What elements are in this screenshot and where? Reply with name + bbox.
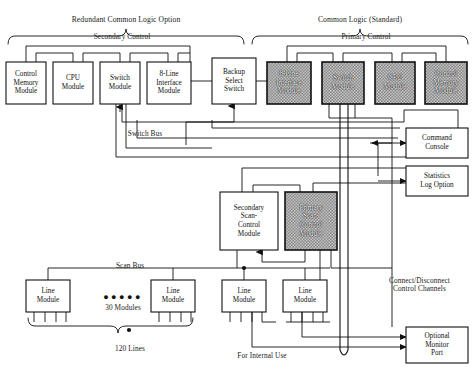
switch-module-primary[interactable] xyxy=(322,62,364,104)
primary-control: Primary Control xyxy=(296,33,436,41)
eight-line-interface-module-secondary[interactable] xyxy=(147,62,191,104)
primary-scan-control-module[interactable] xyxy=(285,192,337,250)
lines-count-label: 120 Lines xyxy=(100,345,160,353)
connect-disconnect-label: Connect/Disconnect Control Channels xyxy=(372,277,467,294)
line-module-2[interactable] xyxy=(151,280,195,312)
module-boxes xyxy=(6,58,468,363)
optional-monitor-port[interactable] xyxy=(406,327,468,363)
redundant-group-label: Redundant Common Logic Option xyxy=(8,16,244,24)
internal-use-label: For Internal Use xyxy=(222,352,302,360)
cpu-module-primary[interactable] xyxy=(375,62,415,104)
switch-bus-label: Switch Bus xyxy=(105,130,185,138)
scan-bus-label: Scan Bus xyxy=(95,262,165,270)
diagram-vector-layer xyxy=(0,0,474,371)
standard-group-label: Common Logic (Standard) xyxy=(252,16,468,24)
control-memory-module-secondary[interactable] xyxy=(6,62,46,104)
statistics-log-option[interactable] xyxy=(406,166,468,196)
control-memory-module-primary[interactable] xyxy=(425,62,467,104)
command-console[interactable] xyxy=(406,128,468,158)
cpu-module-secondary[interactable] xyxy=(53,62,93,104)
switch-module-secondary[interactable] xyxy=(100,62,140,104)
eight-line-interface-module-primary[interactable] xyxy=(267,62,311,104)
line-module-4[interactable] xyxy=(283,280,327,312)
line-module-3[interactable] xyxy=(222,280,266,312)
secondary-control: Secondary Control xyxy=(52,33,192,41)
line-module-1[interactable] xyxy=(26,280,70,312)
block-diagram-canvas: Control Memory ModuleCPU ModuleSwitch Mo… xyxy=(0,0,474,371)
thirty-modules-label: 30 Modules xyxy=(93,304,153,312)
ellipsis-dots-icon: ●●●●● xyxy=(92,292,154,302)
secondary-scan-control-module[interactable] xyxy=(220,192,278,250)
backup-select-switch[interactable] xyxy=(212,58,256,104)
